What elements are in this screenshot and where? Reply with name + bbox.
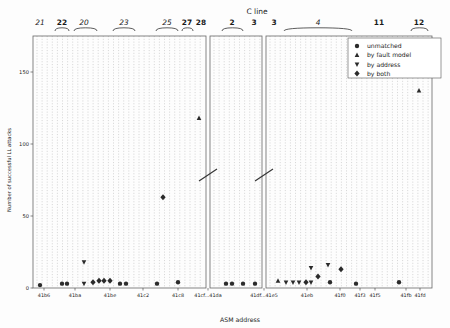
x-tick-label: 41fd xyxy=(414,292,425,298)
scatter-plot-figure: 050100150 41b641ba41be41c241c841cf...41d… xyxy=(0,0,450,328)
data-point-unmatched xyxy=(38,283,42,287)
group-label-12-12: 12 xyxy=(414,18,424,27)
y-tick-label: 150 xyxy=(19,69,29,75)
chart-root: 050100150 41b641ba41be41c241c841cf...41d… xyxy=(0,0,450,328)
y-tick-label: 100 xyxy=(19,141,29,147)
x-tick-label: 41f5 xyxy=(369,292,380,298)
c-line-label: C line xyxy=(246,7,268,16)
x-tick-label: 41be xyxy=(104,292,116,298)
group-label-3-9: 3 xyxy=(271,18,276,27)
group-label-2-7: 2 xyxy=(229,18,234,27)
data-point-unmatched xyxy=(60,281,64,285)
x-tick-label: 41eb xyxy=(301,292,313,298)
data-point-unmatched xyxy=(328,280,332,284)
group-label-11-11: 11 xyxy=(374,18,384,27)
legend-label-by-fault-model[interactable]: by fault model xyxy=(367,51,411,59)
data-point-unmatched xyxy=(241,281,245,285)
y-tick-label: 50 xyxy=(22,213,29,219)
x-tick-label: 41fb xyxy=(400,292,411,298)
group-label-23-3: 23 xyxy=(119,18,129,27)
data-point-unmatched xyxy=(230,281,234,285)
x-tick-label: 41cf...41da xyxy=(194,292,221,298)
data-point-unmatched xyxy=(65,281,69,285)
group-label-22-1: 22 xyxy=(57,18,67,27)
group-label-25-4: 25 xyxy=(162,18,172,27)
data-point-unmatched xyxy=(224,281,228,285)
legend-marker-circle-icon xyxy=(355,44,359,48)
data-point-unmatched xyxy=(253,281,257,285)
group-label-3-8: 3 xyxy=(251,18,256,27)
x-tick-label: 41ba xyxy=(69,292,81,298)
legend-label-by-both[interactable]: by both xyxy=(367,70,390,78)
x-tick-label: 41c2 xyxy=(137,292,149,298)
x-tick-label: 41b6 xyxy=(38,292,50,298)
group-label-20-2: 20 xyxy=(79,18,89,27)
group-label-27-5: 27 xyxy=(182,18,192,27)
group-label-4-10: 4 xyxy=(316,18,321,27)
y-tick-label: 0 xyxy=(26,285,29,291)
data-point-unmatched xyxy=(124,281,128,285)
group-label-21-0: 21 xyxy=(35,18,44,27)
legend-label-unmatched[interactable]: unmatched xyxy=(367,42,402,49)
y-axis-title: Number of successful LL attacks xyxy=(6,128,12,212)
data-point-unmatched xyxy=(354,281,358,285)
x-tick-label: 41f3 xyxy=(354,292,365,298)
group-label-28-6: 28 xyxy=(196,18,206,27)
data-point-unmatched xyxy=(118,281,122,285)
x-tick-label: 41c8 xyxy=(172,292,184,298)
data-point-unmatched xyxy=(176,280,180,284)
legend-label-by-address[interactable]: by address xyxy=(367,61,400,69)
x-tick-label: 41df...41e5 xyxy=(250,292,278,298)
x-tick-label: 41f0 xyxy=(334,292,345,298)
x-axis-title: ASM address xyxy=(220,316,260,323)
data-point-unmatched xyxy=(397,280,401,284)
legend[interactable]: unmatchedby fault modelby addressby both xyxy=(348,38,441,78)
data-point-unmatched xyxy=(155,281,159,285)
